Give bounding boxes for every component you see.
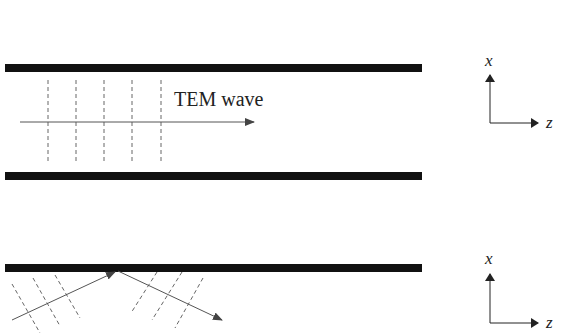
waveguide-diagram: TEM wave x z x z: [0, 0, 564, 335]
upper-plate: [5, 64, 422, 72]
bottom-reflection: [5, 264, 422, 333]
reflecting-plate: [5, 264, 422, 272]
bottom-axes: x z: [484, 249, 553, 332]
z-axis-label: z: [545, 313, 553, 332]
top-waveguide: TEM wave: [5, 64, 422, 180]
tem-wave-label: TEM wave: [174, 88, 264, 110]
reflected-ray: [118, 271, 222, 320]
reflected-wavefronts: [131, 272, 203, 328]
incident-ray: [12, 272, 115, 320]
z-axis-label: z: [545, 113, 553, 132]
x-axis-label: x: [484, 249, 493, 268]
top-axes: x z: [484, 51, 553, 132]
lower-plate: [5, 172, 422, 180]
x-axis-label: x: [484, 51, 493, 70]
wavefronts: [48, 80, 161, 162]
